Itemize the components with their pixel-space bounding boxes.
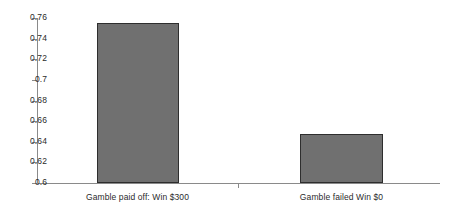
- y-axis-tick-label: 0.74: [30, 34, 47, 43]
- x-axis-category-tick: [238, 184, 239, 188]
- y-axis-tick-label: 0.64: [30, 137, 47, 146]
- y-axis-tick-label: 0.7: [35, 75, 47, 84]
- y-axis-tick-label: 0.62: [30, 157, 47, 166]
- x-axis-category-label: Gamble paid off: Win $300: [38, 192, 238, 202]
- bar: [97, 23, 179, 183]
- y-axis-tick-label: 0.66: [30, 116, 47, 125]
- x-axis-category-label: Gamble failed Win $0: [242, 192, 442, 202]
- y-axis-tick-label: 0.68: [30, 96, 47, 105]
- bar-chart: 0.60.620.640.660.680.70.720.740.76 Gambl…: [0, 0, 455, 213]
- y-axis-tick-label: 0.6: [35, 178, 47, 187]
- y-axis-tick-label: 0.72: [30, 54, 47, 63]
- y-axis-tick-label: 0.76: [30, 13, 47, 22]
- bar: [300, 134, 383, 184]
